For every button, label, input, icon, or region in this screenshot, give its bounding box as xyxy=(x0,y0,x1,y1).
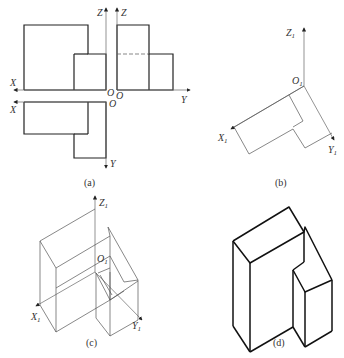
label-z1: Z1 xyxy=(286,27,295,40)
y1-axis xyxy=(304,86,334,140)
panel-c-construction: Z1 O1 X1 Y1 (c) xyxy=(30,196,142,349)
label-x-top: X xyxy=(9,104,17,115)
caption-b: (b) xyxy=(275,177,287,189)
label-y1: Y1 xyxy=(328,144,337,157)
construction-lines xyxy=(40,209,138,336)
top-view xyxy=(24,102,106,158)
label-y1-c: Y1 xyxy=(132,320,141,333)
caption-c: (c) xyxy=(86,337,97,349)
caption-d: (d) xyxy=(273,337,285,349)
label-x-front: X xyxy=(9,77,17,88)
label-y-side: Y xyxy=(181,94,188,105)
front-view xyxy=(24,25,106,90)
panel-a-three-view: Z X O Z O Y X O Y (a) xyxy=(9,7,190,189)
caption-a: (a) xyxy=(84,177,95,189)
label-z-front: Z xyxy=(97,7,103,18)
top-view-outline-iso xyxy=(234,86,332,154)
label-y-top: Y xyxy=(110,158,117,169)
label-z1-c: Z1 xyxy=(99,197,108,210)
label-x1-c: X1 xyxy=(30,311,41,324)
panel-d-isometric-solid: (d) xyxy=(233,207,332,352)
solid-outline xyxy=(233,207,332,352)
label-o-front: O xyxy=(107,87,114,98)
panel-b-isometric-axes: Z1 O1 X1 Y1 (b) xyxy=(217,27,337,189)
y1-axis-c xyxy=(95,272,142,320)
label-x1: X1 xyxy=(217,132,228,145)
label-o-side: O xyxy=(116,90,123,101)
technical-drawing: Z X O Z O Y X O Y (a) xyxy=(0,0,344,358)
label-o1-c: O1 xyxy=(97,253,108,266)
side-view xyxy=(117,25,173,90)
label-z-side: Z xyxy=(121,7,127,18)
label-o1: O1 xyxy=(292,75,303,88)
label-o-top: O xyxy=(109,98,116,109)
figure-canvas: Z X O Z O Y X O Y (a) xyxy=(0,0,344,358)
x1-axis-c xyxy=(36,272,95,306)
